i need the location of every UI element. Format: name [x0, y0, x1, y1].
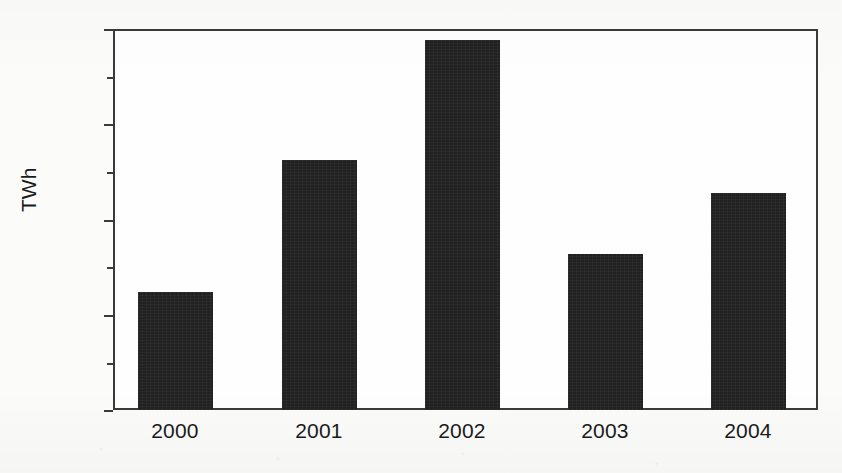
y-minor-tick-175: [107, 77, 113, 79]
bars-layer: [113, 29, 818, 410]
y-major-tick-200: [104, 29, 113, 31]
y-minor-tick-25: [107, 363, 113, 365]
bar-2001: [282, 160, 357, 410]
y-major-tick-0: [104, 410, 113, 412]
bar-2004: [711, 193, 786, 410]
y-major-tick-150: [104, 124, 113, 126]
bar-2000: [138, 292, 213, 410]
bar-2002: [425, 40, 500, 410]
x-tick-label-2003: 2003: [550, 419, 660, 443]
y-major-tick-50: [104, 315, 113, 317]
x-tick-label-2004: 2004: [693, 419, 803, 443]
bar-2003: [568, 254, 643, 410]
x-tick-label-2000: 2000: [120, 419, 230, 443]
x-tick-label-2001: 2001: [264, 419, 374, 443]
chart-page: TWh 200 150 100 50 0 2000 2001 2002 2003…: [0, 0, 842, 473]
y-minor-tick-75: [107, 267, 113, 269]
y-major-tick-100: [104, 220, 113, 222]
y-axis-title: TWh: [17, 178, 41, 212]
x-tick-label-2002: 2002: [407, 419, 517, 443]
y-minor-tick-125: [107, 172, 113, 174]
